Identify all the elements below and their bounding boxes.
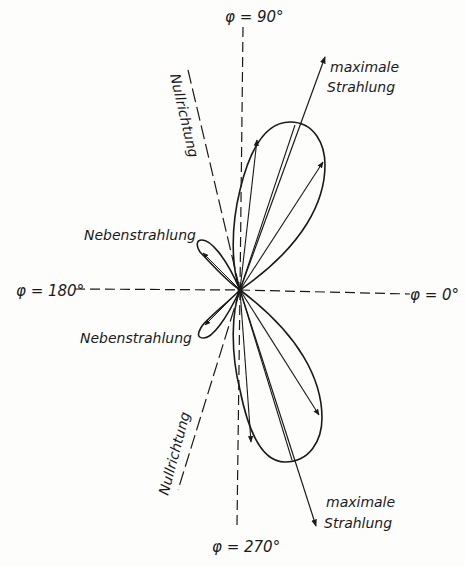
label-180deg: φ = 180°	[16, 282, 84, 300]
label-max-upper-2: Strahlung	[327, 79, 395, 95]
axis-0	[240, 290, 410, 294]
vector-lower-1	[240, 290, 251, 442]
label-max-lower-1: maximale	[326, 494, 395, 510]
null-direction-upper	[188, 70, 240, 290]
main-lobe-upper	[233, 122, 325, 290]
vector-lower-3	[240, 290, 319, 415]
vector-upper-4	[240, 125, 295, 290]
radiation-pattern-diagram: φ = 90° φ = 180° φ = 0° φ = 270° maximal…	[0, 0, 465, 566]
vector-lower-4	[240, 290, 292, 460]
axis-270	[237, 290, 240, 525]
label-max-upper-1: maximale	[330, 59, 399, 75]
label-null-lower: Nullrichtung	[155, 410, 193, 497]
label-side-lower: Nebenstrahlung	[80, 330, 192, 346]
axis-180	[75, 289, 240, 290]
label-side-upper: Nebenstrahlung	[84, 227, 196, 243]
axis-90	[240, 27, 243, 290]
label-max-lower-2: Strahlung	[324, 515, 392, 531]
antenna-origin	[238, 288, 243, 293]
label-270deg: φ = 270°	[212, 538, 280, 556]
label-90deg: φ = 90°	[225, 8, 284, 26]
null-direction-lower	[178, 290, 240, 490]
label-0deg: φ = 0°	[410, 286, 459, 304]
label-null-upper: Nullrichtung	[167, 72, 202, 159]
